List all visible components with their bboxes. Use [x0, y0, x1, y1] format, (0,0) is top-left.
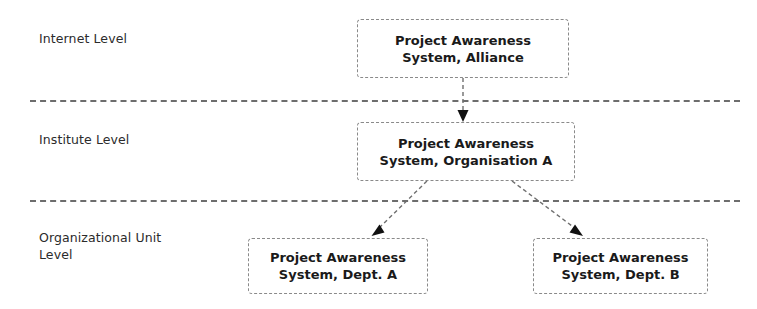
diagram-canvas: Internet Level Institute Level Organizat… — [0, 0, 757, 309]
connector-organisation-to-dept-a — [372, 181, 428, 236]
connector-organisation-to-dept-b — [512, 181, 583, 236]
connector-alliance-to-organisation — [458, 78, 469, 122]
node-project-awareness-system-organisation-a[interactable]: Project Awareness System, Organisation A — [357, 122, 575, 181]
node-project-awareness-system-dept-a[interactable]: Project Awareness System, Dept. A — [248, 238, 428, 294]
node-project-awareness-system-dept-b[interactable]: Project Awareness System, Dept. B — [533, 238, 708, 294]
node-project-awareness-system-alliance[interactable]: Project Awareness System, Alliance — [357, 19, 569, 78]
